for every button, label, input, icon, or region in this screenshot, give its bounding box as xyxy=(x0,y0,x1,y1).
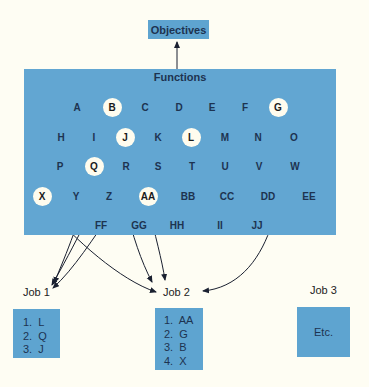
function-dd: DD xyxy=(256,187,280,205)
function-k: K xyxy=(146,128,170,146)
job1-item: 2. Q xyxy=(23,330,60,344)
objectives-box: Objectives xyxy=(148,20,209,39)
job3-etc: Etc. xyxy=(314,326,333,338)
function-u: U xyxy=(213,157,237,175)
job1-label: Job 1 xyxy=(23,286,50,298)
function-o: O xyxy=(282,128,306,146)
function-w: W xyxy=(283,157,307,175)
function-g-selected: G xyxy=(269,98,288,117)
function-n: N xyxy=(246,128,270,146)
function-p: P xyxy=(48,157,72,175)
job2-item: 4. X xyxy=(164,355,203,369)
function-v: V xyxy=(247,157,271,175)
function-hh: HH xyxy=(165,216,189,234)
function-i: I xyxy=(82,128,106,146)
functions-title: Functions xyxy=(24,71,336,83)
function-t: T xyxy=(180,157,204,175)
function-a: A xyxy=(65,98,89,116)
function-bb: BB xyxy=(176,187,200,205)
function-m: M xyxy=(213,128,237,146)
function-h: H xyxy=(49,128,73,146)
function-c: C xyxy=(133,98,157,116)
function-q-selected: Q xyxy=(85,157,104,176)
job2-item: 2. G xyxy=(164,328,203,342)
job3-box: Etc. xyxy=(297,307,350,357)
function-e: E xyxy=(200,98,224,116)
function-r: R xyxy=(114,157,138,175)
function-z: Z xyxy=(97,187,121,205)
function-j-selected: J xyxy=(116,128,135,147)
job3-label: Job 3 xyxy=(310,284,337,296)
job1-item: 1. L xyxy=(23,316,60,330)
function-l-selected: L xyxy=(182,128,201,147)
function-aa-selected: AA xyxy=(139,187,158,206)
function-gg: GG xyxy=(127,216,151,234)
function-x-selected: X xyxy=(33,187,52,206)
function-ii: II xyxy=(208,216,232,234)
function-ff: FF xyxy=(89,216,113,234)
job1-item: 3. J xyxy=(23,343,60,357)
function-cc: CC xyxy=(215,187,239,205)
job2-item: 1. AA xyxy=(164,314,203,328)
job1-box: 1. L 2. Q 3. J xyxy=(13,309,60,358)
function-s: S xyxy=(146,157,170,175)
function-y: Y xyxy=(64,187,88,205)
job2-item: 3. B xyxy=(164,341,203,355)
function-b-selected: B xyxy=(103,98,122,117)
function-jj: JJ xyxy=(245,216,269,234)
job2-box: 1. AA 2. G 3. B 4. X xyxy=(155,308,203,370)
function-d: D xyxy=(167,98,191,116)
job2-label: Job 2 xyxy=(163,286,190,298)
objectives-label: Objectives xyxy=(151,24,207,36)
function-ee: EE xyxy=(297,187,321,205)
functions-box xyxy=(24,69,336,235)
function-f: F xyxy=(233,98,257,116)
